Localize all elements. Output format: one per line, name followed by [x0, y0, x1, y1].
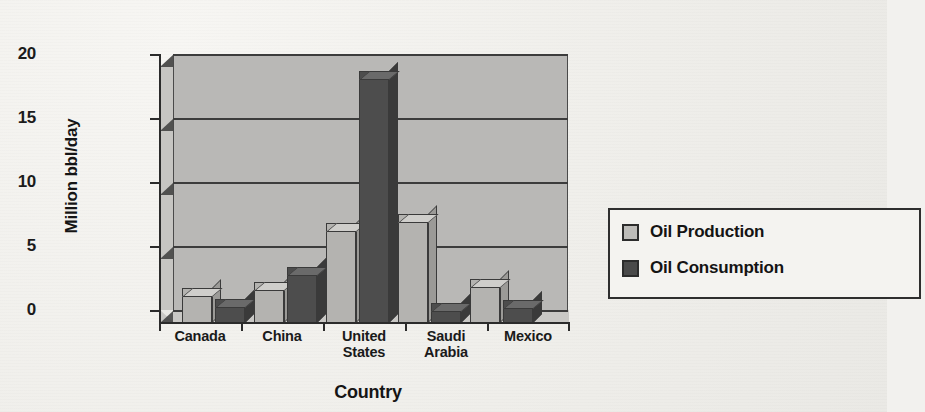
x-category-label-china: China: [240, 328, 324, 344]
y-tick-0: [150, 310, 159, 312]
x-category-label-canada-line1: Canada: [158, 328, 242, 344]
x-axis-title: Country: [268, 382, 468, 403]
bar-saudi-arabia-oil-consumption: [431, 303, 461, 323]
x-category-label-united-states: United States: [322, 328, 406, 360]
y-tick-15: [150, 118, 159, 120]
x-category-label-saudi-arabia: Saudi Arabia: [404, 328, 488, 360]
y-tick-label-0: 0: [27, 300, 36, 320]
chart-legend: Oil Production Oil Consumption: [608, 208, 921, 299]
legend-swatch-oil-production-icon: [622, 224, 639, 241]
bar-china-oil-consumption: [287, 267, 317, 323]
y-axis-line: [159, 54, 161, 323]
x-axis-line: [159, 322, 569, 324]
y-tick-label-20: 20: [18, 44, 36, 64]
x-category-label-saudi-arabia-line1: Saudi: [404, 328, 488, 344]
bar-saudi-arabia-oil-production: [398, 214, 428, 323]
x-category-label-china-line1: China: [240, 328, 324, 344]
bar-mexico-oil-consumption: [503, 300, 533, 323]
bar-mexico-oil-production: [470, 279, 500, 323]
plot-area: 0 5 10 15 20 Million bbl/day Country Can…: [40, 16, 925, 412]
x-category-label-saudi-arabia-line2: Arabia: [404, 344, 488, 360]
x-category-label-canada: Canada: [158, 328, 242, 344]
y-tick-20: [150, 54, 159, 56]
y-axis-title: Million bbl/day: [62, 76, 82, 276]
legend-label-oil-consumption: Oil Consumption: [650, 258, 784, 278]
bar-china-oil-production: [254, 282, 284, 323]
y-tick-5: [150, 246, 159, 248]
bar-canada-oil-consumption: [215, 299, 245, 323]
bar-united-states-oil-consumption: [359, 71, 389, 323]
legend-item-oil-consumption: Oil Consumption: [622, 258, 784, 278]
x-category-label-united-states-line2: States: [322, 344, 406, 360]
legend-label-oil-production: Oil Production: [650, 222, 764, 242]
x-category-label-mexico: Mexico: [486, 328, 570, 344]
y-tick-label-15: 15: [18, 108, 36, 128]
x-category-label-mexico-line1: Mexico: [486, 328, 570, 344]
y-tick-label-10: 10: [18, 172, 36, 192]
gridline-20: [173, 54, 568, 56]
bar-canada-oil-production: [182, 288, 212, 323]
legend-item-oil-production: Oil Production: [622, 222, 764, 242]
legend-swatch-oil-consumption-icon: [622, 260, 639, 277]
x-category-label-united-states-line1: United: [322, 328, 406, 344]
y-tick-10: [150, 182, 159, 184]
oil-production-consumption-bar-chart: 0 5 10 15 20 Million bbl/day Country Can…: [40, 16, 847, 396]
y-tick-label-5: 5: [27, 236, 36, 256]
bar-united-states-oil-production: [326, 223, 356, 323]
